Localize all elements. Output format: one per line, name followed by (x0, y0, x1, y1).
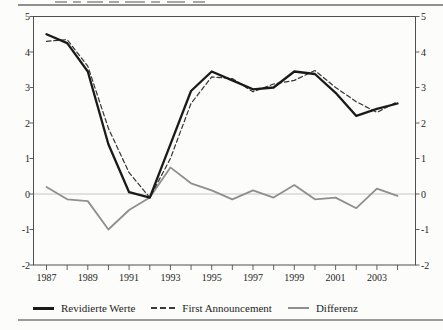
y-axis-label-right: 1 (421, 152, 443, 165)
y-axis-label-right: 4 (421, 46, 443, 59)
legend-item-first-announcement: First Announcement (151, 302, 272, 314)
legend-label: Revidierte Werte (61, 302, 135, 314)
chart-legend: Revidierte WerteFirst AnnouncementDiffer… (33, 300, 423, 316)
differenz-line (47, 167, 398, 229)
footer-rule (18, 319, 443, 321)
y-axis-label-left: 1 (6, 152, 30, 165)
x-axis-year-label: 2001 (320, 272, 352, 283)
x-axis-year-label: 1999 (278, 272, 310, 283)
legend-item-differenz: Differenz (288, 302, 358, 314)
x-axis-year-label: 1997 (237, 272, 269, 283)
legend-label: First Announcement (182, 302, 272, 314)
book-page-figure: { "figure": { "kind": "scanned line char… (0, 0, 443, 330)
x-axis-year-label: 2003 (361, 272, 393, 283)
revidierte-werte-line (47, 34, 398, 197)
x-axis-year-label: 1987 (31, 272, 63, 283)
plot-frame (34, 17, 416, 266)
legend-line-sample-icon (288, 307, 309, 309)
y-axis-label-left: 3 (6, 81, 30, 94)
x-axis-year-label: 1993 (154, 272, 186, 283)
first-announcement-line (47, 40, 398, 198)
legend-line-sample-icon (33, 307, 54, 310)
legend-line-sample-icon (151, 307, 175, 309)
x-axis-year-label: 1989 (72, 272, 104, 283)
y-axis-label-right: 3 (421, 81, 443, 94)
y-axis-label-left: 0 (6, 188, 30, 201)
y-axis-label-left: -1 (6, 223, 30, 236)
legend-item-revidierte-werte: Revidierte Werte (33, 302, 135, 314)
y-axis-label-right: -1 (421, 223, 443, 236)
x-axis-year-label: 1995 (196, 272, 228, 283)
axis-ticks (30, 17, 420, 271)
x-axis-year-label: 1991 (113, 272, 145, 283)
y-axis-label-left: -2 (6, 259, 30, 272)
legend-label: Differenz (316, 302, 358, 314)
y-axis-label-right: -2 (421, 259, 443, 272)
y-axis-label-right: 0 (421, 188, 443, 201)
y-axis-label-left: 4 (6, 46, 30, 59)
y-axis-label-left: 5 (6, 10, 30, 23)
y-axis-label-right: 2 (421, 117, 443, 130)
y-axis-label-left: 2 (6, 117, 30, 130)
y-axis-label-right: 5 (421, 10, 443, 23)
